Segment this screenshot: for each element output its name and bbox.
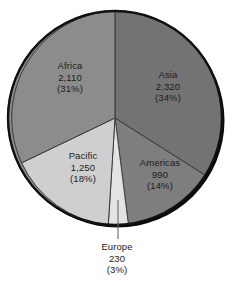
slice-label-europe-value: 230 bbox=[76, 253, 158, 265]
slice-label-pacific: Pacific 1,250 (18%) bbox=[48, 150, 118, 185]
slice-label-americas: Americas 990 (14%) bbox=[122, 157, 198, 192]
slice-label-pacific-name: Pacific bbox=[48, 150, 118, 162]
slice-label-africa-value: 2,110 bbox=[34, 72, 106, 84]
slice-label-africa-percent: (31%) bbox=[34, 83, 106, 95]
slice-label-europe: Europe 230 (3%) bbox=[76, 241, 158, 276]
slice-label-europe-percent: (3%) bbox=[76, 264, 158, 276]
slice-label-africa: Africa 2,110 (31%) bbox=[34, 60, 106, 95]
slice-label-asia-name: Asia bbox=[134, 69, 202, 81]
slice-label-asia: Asia 2,320 (34%) bbox=[134, 69, 202, 104]
slice-label-pacific-percent: (18%) bbox=[48, 173, 118, 185]
slice-label-pacific-value: 1,250 bbox=[48, 162, 118, 174]
slice-label-asia-value: 2,320 bbox=[134, 81, 202, 93]
slice-label-americas-name: Americas bbox=[122, 157, 198, 169]
slice-label-europe-name: Europe bbox=[76, 241, 158, 253]
slice-label-americas-percent: (14%) bbox=[122, 180, 198, 192]
slice-label-africa-name: Africa bbox=[34, 60, 106, 72]
slice-label-americas-value: 990 bbox=[122, 169, 198, 181]
pie-chart: Africa 2,110 (31%) Asia 2,320 (34%) Paci… bbox=[0, 0, 233, 286]
slice-label-asia-percent: (34%) bbox=[134, 92, 202, 104]
